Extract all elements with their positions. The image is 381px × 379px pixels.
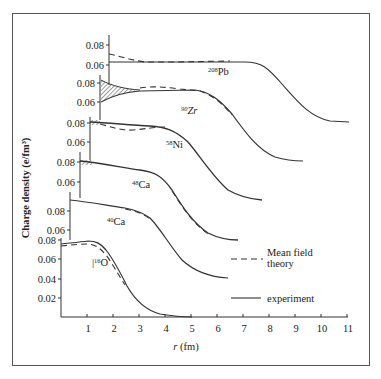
y-tick-ca40-008: 0.08 <box>47 206 65 217</box>
x-tick-3: 3 <box>137 323 142 334</box>
y-axis-title: Charge density (e/fm³) <box>20 137 32 238</box>
label-90zr: 90Zr <box>181 105 198 116</box>
y-tick-ni-008: 0.08 <box>67 118 85 129</box>
series-90zr: 0.08 0.06 90Zr <box>77 75 303 161</box>
y-tick-o-006: 0.06 <box>38 254 56 265</box>
y-tick-ca48-006: 0.06 <box>57 177 75 188</box>
x-tick-1: 1 <box>85 323 90 334</box>
x-tick-labels: 1 2 3 4 5 6 7 8 9 10 11 <box>85 323 353 334</box>
label-40ca: 40Ca <box>107 216 126 227</box>
legend: Mean field theory experiment <box>231 247 314 304</box>
series-208pb: 0.08 0.06 208Pb <box>86 35 349 122</box>
y-tick-ni-006: 0.06 <box>67 137 85 148</box>
label-208pb: 208Pb <box>208 66 229 77</box>
y-tick-ca48-008: 0.08 <box>57 157 75 168</box>
x-tick-2: 2 <box>111 323 116 334</box>
pb-mean-field-line <box>109 54 230 62</box>
series-40ca: 0.08 0.06 40Ca <box>47 192 228 278</box>
legend-theory-label: theory <box>267 258 295 269</box>
y-tick-pb-008: 0.08 <box>86 40 104 51</box>
legend-experiment-label: experiment <box>267 293 314 304</box>
y-tick-o-004: 0.04 <box>38 274 57 285</box>
label-48ca: 48Ca <box>132 179 151 190</box>
x-tick-10: 10 <box>317 323 328 334</box>
y-tick-o-008: 0.08 <box>38 235 56 246</box>
ni-experiment-line <box>90 122 262 200</box>
x-axis-title: r (fm) <box>173 341 199 353</box>
x-axis <box>61 314 348 317</box>
o-experiment-line <box>61 241 192 317</box>
charge-density-chart: 1 2 3 4 5 6 7 8 9 10 11 r (fm) Charge de… <box>0 0 381 379</box>
x-tick-4: 4 <box>163 323 169 334</box>
x-tick-7: 7 <box>241 323 246 334</box>
pb-experiment-line <box>109 62 349 122</box>
zr-hatch-region <box>101 80 135 102</box>
y-tick-o-002: 0.02 <box>38 293 56 304</box>
series-58ni: 0.08 0.06 58Ni <box>67 117 262 200</box>
y-tick-zr-006: 0.06 <box>77 97 95 108</box>
x-tick-5: 5 <box>189 323 194 334</box>
series-48ca: 0.08 0.06 48Ca <box>57 152 238 240</box>
y-tick-zr-008: 0.08 <box>77 78 95 89</box>
label-58ni: 58Ni <box>166 139 183 150</box>
legend-mean-field-label: Mean field <box>267 247 314 258</box>
series-16o: 0.08 0.06 0.04 0.02 |16O <box>38 235 192 317</box>
y-tick-pb-006: 0.06 <box>86 60 104 71</box>
x-tick-9: 9 <box>293 323 298 334</box>
x-tick-8: 8 <box>267 323 272 334</box>
ca40-mean-field-line <box>125 209 150 219</box>
label-16o: |16O <box>92 257 109 268</box>
x-tick-6: 6 <box>215 323 220 334</box>
x-tick-11: 11 <box>343 323 353 334</box>
zr-experiment-line <box>101 90 303 161</box>
